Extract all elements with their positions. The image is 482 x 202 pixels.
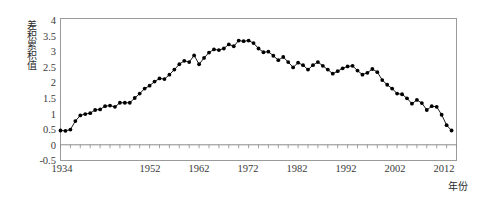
data-point-marker <box>237 39 241 43</box>
data-point-marker <box>118 101 122 105</box>
data-point-marker <box>247 39 251 43</box>
data-point-marker <box>400 92 404 96</box>
data-point-marker <box>177 62 181 66</box>
data-point-marker <box>440 113 444 117</box>
data-point-marker <box>113 105 117 109</box>
data-point-marker <box>405 96 409 100</box>
data-point-marker <box>172 68 176 72</box>
data-point-marker <box>336 69 340 73</box>
data-point-marker <box>351 64 355 68</box>
data-point-marker <box>321 64 325 68</box>
data-point-marker <box>128 101 132 105</box>
data-point-marker <box>390 87 394 91</box>
data-point-marker <box>267 50 271 54</box>
data-point-marker <box>197 62 201 66</box>
data-point-marker <box>281 55 285 59</box>
data-point-marker <box>182 59 186 63</box>
data-point-marker <box>69 128 73 132</box>
data-point-marker <box>291 66 295 70</box>
data-point-marker <box>103 104 107 108</box>
data-point-marker <box>192 54 196 58</box>
data-point-marker <box>286 60 290 64</box>
data-point-marker <box>370 67 374 71</box>
data-point-marker <box>59 129 63 133</box>
data-point-marker <box>385 83 389 87</box>
data-point-marker <box>375 70 379 74</box>
data-point-marker <box>435 105 439 109</box>
data-point-marker <box>78 113 82 117</box>
data-point-marker <box>153 80 157 84</box>
chart-figure: 差积累积值 4 3.5 3 2.5 2 1.5 1 0.5 0 -0.5 193… <box>0 0 482 202</box>
data-point-marker <box>207 51 211 55</box>
data-point-marker <box>415 98 419 102</box>
data-point-marker <box>143 87 147 91</box>
data-point-marker <box>425 108 429 112</box>
data-point-marker <box>242 39 246 43</box>
data-point-marker <box>232 44 236 48</box>
data-point-marker <box>148 84 152 88</box>
data-point-marker <box>311 63 315 67</box>
data-point-marker <box>64 129 68 133</box>
data-point-marker <box>450 129 454 133</box>
data-point-marker <box>98 107 102 111</box>
data-point-marker <box>445 123 449 127</box>
data-point-marker <box>366 71 370 75</box>
data-point-marker <box>276 58 280 62</box>
data-point-marker <box>316 60 320 64</box>
data-markers <box>59 39 454 133</box>
data-line <box>61 41 452 131</box>
data-point-marker <box>361 73 365 77</box>
data-point-marker <box>83 112 87 116</box>
data-point-marker <box>395 92 399 96</box>
data-point-marker <box>217 48 221 52</box>
data-point-marker <box>271 54 275 58</box>
data-point-marker <box>168 73 172 77</box>
data-point-marker <box>331 72 335 76</box>
data-point-marker <box>138 92 142 96</box>
data-point-marker <box>380 78 384 82</box>
data-point-marker <box>123 101 127 105</box>
data-point-marker <box>158 77 162 81</box>
data-point-marker <box>222 47 226 51</box>
data-point-marker <box>133 96 137 100</box>
data-point-marker <box>262 50 266 54</box>
data-point-marker <box>420 101 424 105</box>
data-point-marker <box>73 119 77 123</box>
chart-plot-svg <box>0 0 482 202</box>
data-point-marker <box>93 108 97 112</box>
data-point-marker <box>187 60 191 64</box>
data-point-marker <box>301 63 305 67</box>
data-point-marker <box>252 41 256 45</box>
data-point-marker <box>306 68 310 72</box>
data-point-marker <box>88 111 92 115</box>
data-point-marker <box>257 47 261 51</box>
data-point-marker <box>202 56 206 60</box>
data-point-marker <box>356 69 360 73</box>
data-point-marker <box>296 61 300 65</box>
plot-frame <box>61 19 457 161</box>
data-point-marker <box>430 104 434 108</box>
data-point-marker <box>227 42 231 46</box>
data-point-marker <box>163 77 167 81</box>
data-point-marker <box>326 68 330 72</box>
x-minor-ticks <box>61 145 457 149</box>
data-point-marker <box>346 65 350 69</box>
data-point-marker <box>341 66 345 70</box>
data-point-marker <box>410 102 414 106</box>
data-point-marker <box>212 48 216 52</box>
data-point-marker <box>108 104 112 108</box>
